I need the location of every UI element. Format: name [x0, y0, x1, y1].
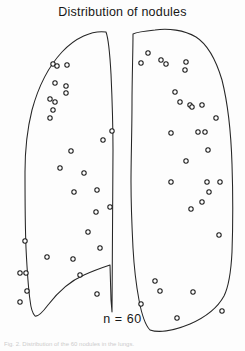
nodule-marker: [206, 148, 210, 152]
nodule-marker: [190, 105, 194, 109]
figure-container: Distribution of nodules: [0, 0, 245, 351]
nodule-marker: [200, 200, 204, 204]
nodule-marker: [82, 171, 86, 175]
nodule-marker: [218, 180, 222, 184]
nodule-marker: [189, 207, 193, 211]
nodule-marker: [95, 292, 99, 296]
nodule-marker: [25, 289, 29, 293]
nodule-marker: [78, 273, 82, 277]
nodule-marker: [164, 62, 168, 66]
nodule-marker: [72, 190, 76, 194]
nodule-marker: [184, 60, 188, 64]
nodule-marker: [71, 257, 75, 261]
nodule-marker: [214, 116, 218, 120]
sample-size-label: n = 60: [0, 312, 245, 326]
nodule-marker: [94, 210, 98, 214]
nodule-marker: [158, 289, 162, 293]
nodule-marker: [24, 271, 28, 275]
nodule-group-left-lung: [139, 51, 224, 320]
nodule-marker: [18, 300, 22, 304]
nodule-marker: [178, 100, 182, 104]
nodule-marker: [217, 233, 221, 237]
nodule-marker: [48, 97, 52, 101]
nodule-marker: [169, 180, 173, 184]
nodule-marker: [69, 149, 73, 153]
nodule-marker: [108, 205, 112, 209]
nodule-marker: [55, 64, 59, 68]
nodule-marker: [65, 63, 69, 67]
left-lung-outline: [131, 29, 233, 331]
nodule-group-right-lung: [18, 62, 114, 304]
nodule-marker: [53, 100, 57, 104]
nodule-marker: [45, 255, 49, 259]
nodule-marker: [18, 271, 22, 275]
nodule-marker: [169, 131, 173, 135]
nodule-marker: [101, 138, 105, 142]
nodule-marker: [58, 166, 62, 170]
nodule-marker: [95, 188, 99, 192]
nodule-marker: [207, 190, 211, 194]
lung-distribution-plot: [0, 0, 245, 351]
nodule-marker: [23, 239, 27, 243]
nodule-marker: [98, 246, 102, 250]
nodule-marker: [48, 116, 52, 120]
nodule-marker: [139, 302, 143, 306]
nodule-marker: [110, 129, 114, 133]
right-lung-outline: [25, 32, 113, 316]
nodule-marker: [53, 81, 57, 85]
nodule-marker: [146, 51, 150, 55]
nodule-marker: [191, 290, 195, 294]
nodule-marker: [173, 90, 177, 94]
nodule-marker: [159, 58, 163, 62]
nodule-marker: [64, 84, 68, 88]
figure-caption: Fig. 2. Distribution of the 60 nodules i…: [4, 341, 241, 348]
nodule-marker: [86, 230, 90, 234]
nodule-marker: [203, 130, 207, 134]
nodule-marker: [184, 159, 188, 163]
nodule-marker: [64, 91, 68, 95]
nodule-marker: [183, 68, 187, 72]
nodule-marker: [139, 61, 143, 65]
nodule-marker: [196, 130, 200, 134]
nodule-marker: [51, 108, 55, 112]
nodule-marker: [205, 180, 209, 184]
nodule-marker: [200, 103, 204, 107]
nodule-marker: [153, 279, 157, 283]
